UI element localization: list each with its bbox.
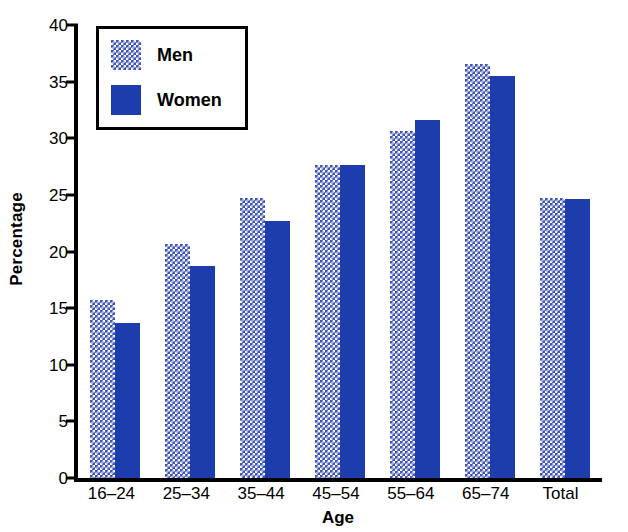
y-axis-tick-mark <box>66 137 78 140</box>
bar-women <box>115 323 140 478</box>
bar-men <box>540 198 565 478</box>
y-axis-tick-mark <box>66 250 78 253</box>
x-axis-line <box>74 478 602 482</box>
x-axis-tick-label: 35–44 <box>238 484 285 504</box>
y-axis-tick-label: 5 <box>30 413 68 430</box>
x-axis-tick-label: 65–74 <box>462 484 509 504</box>
y-axis-tick-mark <box>66 307 78 310</box>
y-axis-tick-label: 25 <box>30 186 68 203</box>
legend-entry-men: Men <box>111 40 193 70</box>
bar-men <box>90 300 115 478</box>
bar-women <box>565 199 590 478</box>
men-dotted-swatch <box>111 40 141 70</box>
legend-entry-women: Women <box>111 85 222 115</box>
y-axis-title-text: Percentage <box>7 192 27 286</box>
bar-group <box>465 25 515 478</box>
bar-group <box>540 25 590 478</box>
y-axis-tick-mark <box>66 420 78 423</box>
y-axis-tick-label: 30 <box>30 130 68 147</box>
bar-men <box>165 244 190 478</box>
x-axis-tick-label: 16–24 <box>88 484 135 504</box>
bar-group <box>315 25 365 478</box>
bar-men <box>240 198 265 478</box>
bar-men <box>465 64 490 478</box>
bar-chart: Percentage 0510152025303540 16–2425–3435… <box>0 0 628 532</box>
bar-men <box>315 165 340 478</box>
x-axis-tick-label: Total <box>543 484 579 504</box>
bar-women <box>340 165 365 478</box>
y-axis-tick-mark <box>66 193 78 196</box>
y-axis-tick-label: 10 <box>30 356 68 373</box>
y-axis-tick-mark <box>66 80 78 83</box>
legend-label-men: Men <box>157 45 193 66</box>
bar-women <box>415 120 440 478</box>
bar-women <box>265 221 290 478</box>
x-axis-tick-label: 25–34 <box>163 484 210 504</box>
x-axis-tick-labels: 16–2425–3435–4445–5455–6465–74Total <box>74 484 602 508</box>
y-axis-tick-label: 0 <box>30 470 68 487</box>
x-axis-tick-label: 45–54 <box>312 484 359 504</box>
y-axis-tick-labels: 0510152025303540 <box>30 0 68 532</box>
legend: Men Women <box>96 26 248 130</box>
bar-women <box>190 266 215 478</box>
x-axis-tick-label: 55–64 <box>387 484 434 504</box>
bar-group <box>390 25 440 478</box>
bar-women <box>490 76 515 478</box>
bar-men <box>390 131 415 478</box>
legend-label-women: Women <box>157 90 222 111</box>
y-axis-tick-mark <box>66 363 78 366</box>
y-axis-tick-label: 20 <box>30 243 68 260</box>
y-axis-title: Percentage <box>0 0 34 478</box>
y-axis-tick-mark <box>66 24 78 27</box>
x-axis-title: Age <box>74 508 602 528</box>
y-axis-tick-label: 40 <box>30 17 68 34</box>
y-axis-tick-label: 15 <box>30 300 68 317</box>
women-solid-swatch <box>111 85 141 115</box>
y-axis-tick-label: 35 <box>30 73 68 90</box>
